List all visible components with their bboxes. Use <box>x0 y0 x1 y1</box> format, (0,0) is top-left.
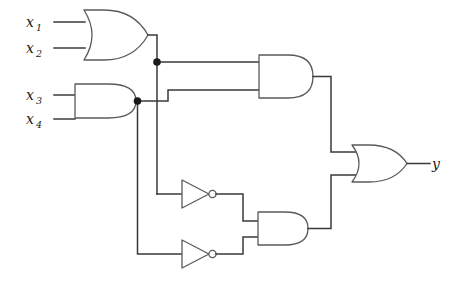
output-label-y: y <box>431 156 441 172</box>
input-subscript-x2: 2 <box>35 48 42 59</box>
net-n5 <box>216 237 258 254</box>
gate-not-1 <box>182 180 216 208</box>
wire-n2-to-not2 <box>138 101 183 254</box>
wire-n5-to-and3 <box>216 237 258 254</box>
input-label-x4: x <box>26 111 34 127</box>
wire-n4-to-and3 <box>216 194 258 221</box>
net-n1 <box>148 35 259 194</box>
logic-circuit-diagram: x 1 x 2 x 3 x 4 y <box>0 0 465 290</box>
input-subscript-x4: 4 <box>35 119 42 130</box>
input-subscript-x3: 3 <box>36 95 42 106</box>
net-n2 <box>136 90 259 254</box>
wire-n3-to-or2 <box>313 77 357 153</box>
net-n6 <box>308 175 357 229</box>
wire-n2-to-and2 <box>138 90 260 101</box>
inverter-bubble-icon <box>209 190 216 197</box>
gate-and-1 <box>75 84 136 118</box>
wire-n6-to-or2 <box>308 175 357 229</box>
or-gate-body <box>84 10 148 60</box>
gate-and-2 <box>259 55 313 98</box>
input-subscript-x1: 1 <box>36 22 42 33</box>
or-gate-body <box>352 145 407 182</box>
input-label-x1: x <box>26 14 34 30</box>
and-gate-body <box>259 55 313 98</box>
circuit-svg: x 1 x 2 x 3 x 4 y <box>0 0 465 290</box>
and-gate-body <box>258 212 308 245</box>
junction-dot <box>134 97 142 105</box>
and-gate-body <box>75 84 136 118</box>
input-label-x2: x <box>26 40 34 56</box>
not-gate-body <box>182 180 209 208</box>
not-gate-body <box>182 240 209 268</box>
input-label-x3: x <box>26 87 34 103</box>
inverter-bubble-icon <box>209 250 216 257</box>
junction-dot <box>153 58 161 66</box>
gate-or-2 <box>352 145 407 182</box>
gate-or-1 <box>84 10 148 60</box>
gate-not-2 <box>182 240 216 268</box>
net-n4 <box>216 194 258 221</box>
gate-and-3 <box>258 212 308 245</box>
net-n3 <box>313 77 357 153</box>
